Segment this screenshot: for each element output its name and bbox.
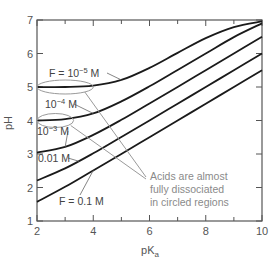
curve-f-1e-3	[37, 37, 262, 153]
curve-label-base: 0.01 M	[38, 152, 70, 164]
curve-label-exponent: −4	[57, 97, 66, 106]
x-axis-label: pKa	[141, 244, 159, 259]
curve-label-unit: M	[88, 67, 100, 79]
y-tick-label: 4	[27, 115, 33, 127]
y-tick-label: 6	[27, 48, 33, 60]
annotation-text-line: in circled regions	[150, 196, 229, 208]
y-axis-label: pH	[2, 116, 14, 130]
y-tick-label: 3	[27, 148, 33, 160]
curve-label-exponent: −5	[79, 66, 88, 75]
x-tick-label: 8	[203, 225, 209, 237]
curve-label-leader-f-1e-5	[107, 73, 121, 80]
annotation-text-line: Acids are almost	[150, 170, 228, 182]
annotation-text-line: fully dissociated	[150, 183, 224, 195]
y-tick-label: 7	[27, 14, 33, 26]
curve-label-exponent: −3	[49, 124, 58, 133]
x-tick-label: 4	[90, 225, 96, 237]
annotation-leader-2	[71, 126, 146, 179]
x-axis-label-sub: a	[155, 250, 160, 259]
y-tick-label: 2	[27, 182, 33, 194]
x-tick-label: 2	[34, 225, 40, 237]
curve-label-unit: M	[57, 125, 69, 137]
curve-label-f-0-01: 0.01 M	[38, 152, 70, 164]
curve-label-base: 10	[45, 98, 57, 110]
x-tick-label: 6	[146, 225, 152, 237]
curve-label-unit: M	[65, 98, 77, 110]
curve-label-base: F = 0.1 M	[59, 195, 104, 207]
curve-label-f-1e-4: 10−4 M	[45, 97, 77, 110]
x-axis-label-main: pK	[141, 244, 155, 256]
ph-vs-pka-chart: Acids are almostfully dissociatedin circ…	[0, 0, 280, 260]
curve-label-base: F = 10	[49, 67, 79, 79]
curve-label-base: 10	[37, 125, 49, 137]
y-tick-label: 5	[27, 81, 33, 93]
x-tick-label: 10	[256, 225, 268, 237]
y-tick-label: 1	[27, 215, 33, 227]
curve-label-f-1e-3: 10−3 M	[37, 124, 69, 137]
curve-label-f-1e-5: F = 10−5 M	[49, 66, 99, 79]
curve-label-f-0-1: F = 0.1 M	[59, 195, 104, 207]
